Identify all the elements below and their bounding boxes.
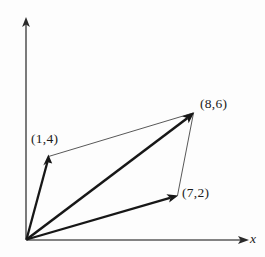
parallel-line-b-to-sum	[178, 113, 194, 196]
point-label-a: (1,4)	[31, 131, 58, 147]
parallel-line-a-to-sum	[49, 113, 194, 157]
vector-diagram	[0, 0, 265, 257]
figure-canvas: (1,4) (8,6) (7,2) x	[0, 0, 265, 257]
vector-b-shaft	[27, 198, 171, 240]
vector-a-shaft	[27, 162, 48, 240]
point-label-b: (7,2)	[182, 185, 209, 201]
construction-lines-group	[49, 113, 194, 196]
point-label-sum: (8,6)	[200, 96, 227, 112]
x-axis-label: x	[250, 231, 256, 247]
